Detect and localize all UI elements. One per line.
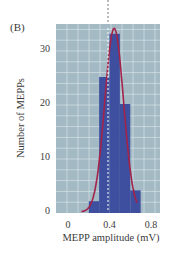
- y-tick-label: 0: [30, 205, 50, 216]
- y-axis-label: Number of MEPPs: [15, 78, 26, 158]
- x-tick-label: 0: [66, 219, 71, 230]
- x-axis-label: MEPP amplitude (mV): [62, 232, 159, 243]
- y-tick-label: 20: [30, 97, 50, 108]
- x-tick-label: 0.8: [145, 219, 158, 230]
- y-tick-label: 30: [30, 43, 50, 54]
- panel-label: (B): [10, 21, 25, 33]
- histogram-bar: [130, 190, 140, 213]
- x-tick-label: 0.4: [103, 219, 116, 230]
- histogram-bar: [89, 201, 99, 213]
- histogram-figure: [0, 0, 172, 254]
- histogram-bar: [110, 34, 120, 213]
- y-tick-label: 10: [30, 151, 50, 162]
